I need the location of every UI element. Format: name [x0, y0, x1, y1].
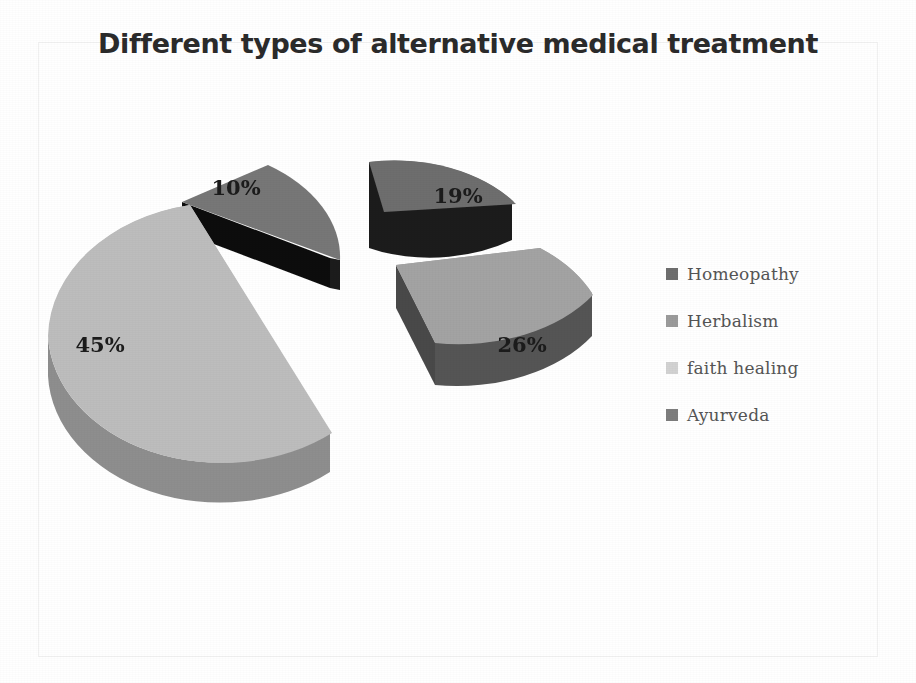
legend-label: Homeopathy: [687, 264, 799, 284]
legend-item-homeopathy[interactable]: Homeopathy: [666, 250, 846, 297]
chart-title: Different types of alternative medical t…: [0, 28, 916, 59]
pie-label-ayurveda: 10%: [211, 175, 260, 200]
pie-label-faith-healing: 45%: [75, 332, 124, 357]
legend-swatch-icon: [666, 409, 678, 421]
pie-slice-homeopathy[interactable]: [369, 160, 516, 257]
pie-slice-herbalism[interactable]: [396, 248, 593, 386]
pie-label-herbalism: 26%: [497, 332, 546, 357]
legend-item-herbalism[interactable]: Herbalism: [666, 297, 846, 344]
pie-label-homeopathy: 19%: [433, 183, 482, 208]
legend-swatch-icon: [666, 268, 678, 280]
legend-item-faith-healing[interactable]: faith healing: [666, 344, 846, 391]
pie-chart: 10% 19% 26%: [40, 140, 640, 540]
legend-swatch-icon: [666, 315, 678, 327]
chart-legend: Homeopathy Herbalism faith healing Ayurv…: [666, 250, 846, 438]
pie-svg: 10% 19% 26%: [40, 140, 640, 540]
legend-swatch-icon: [666, 362, 678, 374]
legend-label: Herbalism: [687, 311, 779, 331]
legend-label: Ayurveda: [687, 405, 770, 425]
pie-slice-ayurveda-side2: [330, 258, 340, 290]
legend-label: faith healing: [687, 358, 799, 378]
legend-item-ayurveda[interactable]: Ayurveda: [666, 391, 846, 438]
